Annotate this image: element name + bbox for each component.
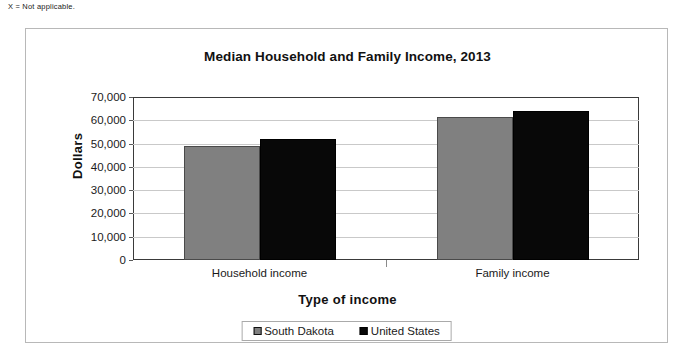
y-axis-tick-label: 70,000 — [91, 91, 126, 103]
x-axis-category-separator — [386, 260, 387, 267]
chart-legend: South Dakota United States — [241, 321, 452, 341]
y-axis-tick-mark — [129, 260, 133, 261]
bar-household-income-united-states — [260, 139, 336, 260]
y-axis-tick-label: 20,000 — [91, 207, 126, 219]
bar-family-income-south-dakota — [437, 117, 513, 260]
legend-swatch-icon-south-dakota — [253, 327, 261, 335]
x-axis-category-label: Family income — [475, 267, 549, 279]
y-axis-title: Dollars — [70, 133, 85, 179]
plot-wrapper: 70,00060,00050,00040,00030,00020,00010,0… — [133, 97, 639, 260]
bar-family-income-united-states — [513, 111, 589, 260]
y-axis-tick-mark — [129, 167, 133, 168]
footnote-text: X = Not applicable. — [8, 2, 75, 11]
y-axis-tick-label: 30,000 — [91, 184, 126, 196]
y-axis-tick-mark — [129, 144, 133, 145]
y-axis-tick-label: 60,000 — [91, 114, 126, 126]
legend-label-united-states: United States — [371, 325, 440, 337]
x-axis-category-label: Household income — [212, 267, 307, 279]
y-axis-tick-mark — [129, 213, 133, 214]
y-axis-tick-mark — [129, 190, 133, 191]
y-axis-tick-mark — [129, 97, 133, 98]
legend-label-south-dakota: South Dakota — [264, 325, 334, 337]
y-axis-tick-label: 50,000 — [91, 138, 126, 150]
y-axis-tick-label: 40,000 — [91, 161, 126, 173]
y-axis-tick-mark — [129, 237, 133, 238]
bar-household-income-south-dakota — [184, 146, 260, 260]
legend-swatch-icon-united-states — [360, 327, 368, 335]
x-axis-title: Type of income — [26, 292, 669, 307]
chart-title: Median Household and Family Income, 2013 — [26, 49, 669, 64]
y-axis-tick-label: 0 — [120, 254, 126, 266]
legend-item-south-dakota: South Dakota — [253, 325, 334, 337]
chart-container: Median Household and Family Income, 2013… — [25, 28, 668, 343]
y-axis-tick-mark — [129, 120, 133, 121]
legend-item-united-states: United States — [360, 325, 440, 337]
y-axis-tick-label: 10,000 — [91, 231, 126, 243]
